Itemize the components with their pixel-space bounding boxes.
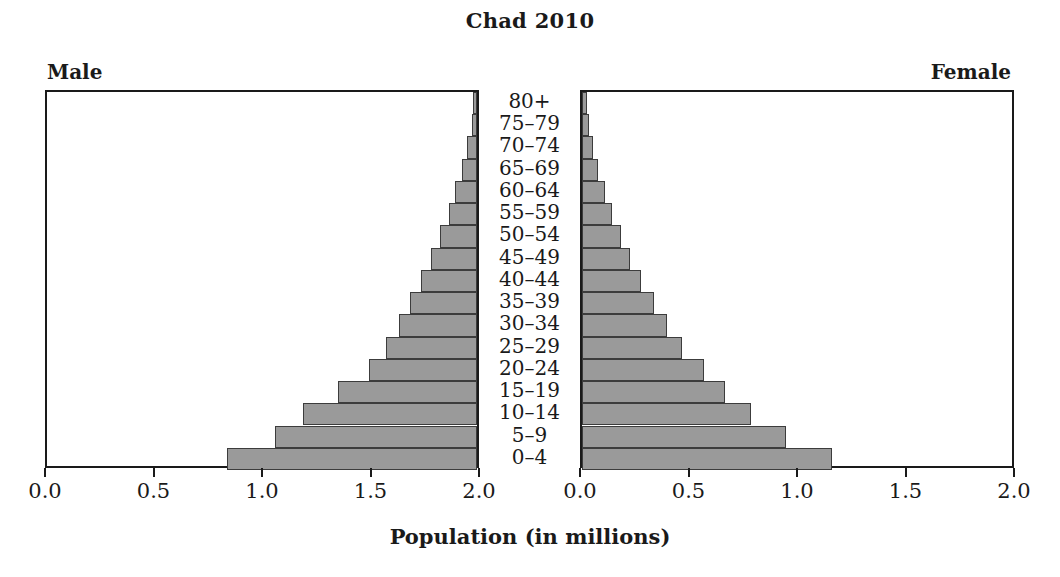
bar-male-30-34 [399,314,477,336]
bar-row [47,403,477,425]
bar-row [47,114,477,136]
age-group-label: 50–54 [479,223,580,245]
bar-male-20-24 [369,359,478,381]
axis-tick-label: 0.0 [5,479,85,503]
bar-male-0-4 [227,448,477,470]
bar-row [582,359,1012,381]
bar-row [582,181,1012,203]
bar-row [582,337,1012,359]
bar-male-25-29 [386,337,477,359]
axis-tick-label: 1.5 [866,479,946,503]
axis-tick-mark [261,468,263,477]
bar-row [582,381,1012,403]
population-pyramid-figure: Chad 2010 Male Female 80+75–7970–7465–69… [0,0,1060,577]
bar-row [47,426,477,448]
axis-tick-label: 2.0 [974,479,1054,503]
bar-row [47,337,477,359]
bar-female-30-34 [582,314,667,336]
bar-male-80+ [473,92,477,114]
bar-row [47,270,477,292]
bar-female-65-69 [582,159,598,181]
bar-female-75-79 [582,114,589,136]
bar-row [582,92,1012,114]
bar-row [582,426,1012,448]
bar-row [47,248,477,270]
age-group-label: 45–49 [479,246,580,268]
age-group-label: 5–9 [479,424,580,446]
age-group-label: 70–74 [479,134,580,156]
bar-female-80+ [582,92,587,114]
bar-row [582,114,1012,136]
bar-row [47,136,477,158]
axis-tick-mark [153,468,155,477]
bar-female-35-39 [582,292,654,314]
bar-row [47,181,477,203]
age-group-label: 35–39 [479,290,580,312]
bar-row [582,203,1012,225]
age-group-label: 65–69 [479,157,580,179]
panel-label-male: Male [47,60,102,84]
panel-label-female: Female [813,60,1011,84]
age-group-label: 0–4 [479,446,580,468]
bar-row [47,159,477,181]
bar-group-male [47,92,477,466]
bar-row [47,292,477,314]
bar-male-60-64 [455,181,477,203]
bar-female-10-14 [582,403,751,425]
age-group-label: 60–64 [479,179,580,201]
axis-tick-mark [905,468,907,477]
bar-row [582,292,1012,314]
age-group-label: 10–14 [479,401,580,423]
axis-tick-mark [796,468,798,477]
plot-panel-male [45,90,479,468]
bar-row [582,403,1012,425]
axis-tick-label: 0.5 [114,479,194,503]
bar-row [47,225,477,247]
age-group-label: 55–59 [479,201,580,223]
bar-female-0-4 [582,448,832,470]
bar-male-55-59 [449,203,477,225]
x-axis-title: Population (in millions) [0,524,1060,549]
chart-title: Chad 2010 [0,8,1060,33]
axis-tick-mark [370,468,372,477]
age-group-label: 20–24 [479,357,580,379]
axis-tick-label: 0.5 [649,479,729,503]
axis-tick-label: 0.0 [540,479,620,503]
axis-tick-mark [1013,468,1015,477]
age-group-label: 15–19 [479,379,580,401]
bar-group-female [582,92,1012,466]
axis-tick-label: 2.0 [439,479,519,503]
bar-row [582,314,1012,336]
bar-row [582,136,1012,158]
bar-male-75-79 [472,114,477,136]
bar-female-70-74 [582,136,593,158]
bar-male-50-54 [440,225,477,247]
plot-panel-female [580,90,1014,468]
bar-male-15-19 [338,381,477,403]
bar-female-20-24 [582,359,704,381]
bar-male-65-69 [462,159,477,181]
bar-row [47,381,477,403]
bar-row [47,359,477,381]
axis-tick-mark [579,468,581,477]
age-group-axis: 80+75–7970–7465–6960–6455–5950–5445–4940… [479,90,580,468]
bar-male-45-49 [431,248,477,270]
axis-tick-label: 1.0 [757,479,837,503]
x-axis-female: 0.00.51.01.52.0 [580,468,1014,514]
bar-row [582,270,1012,292]
bar-female-40-44 [582,270,641,292]
bar-female-5-9 [582,426,786,448]
bar-male-40-44 [421,270,477,292]
bar-row [47,203,477,225]
bar-female-50-54 [582,225,621,247]
bar-row [47,92,477,114]
bar-female-25-29 [582,337,682,359]
bar-row [582,248,1012,270]
bar-female-45-49 [582,248,630,270]
bar-female-60-64 [582,181,605,203]
bar-row [582,159,1012,181]
x-axis-male: 2.01.51.00.50.0 [45,468,479,514]
age-group-label: 40–44 [479,268,580,290]
bar-row [582,448,1012,470]
bar-row [582,225,1012,247]
